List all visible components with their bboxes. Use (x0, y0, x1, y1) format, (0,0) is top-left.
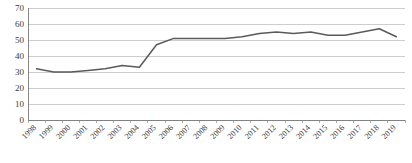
chart-canvas: 010203040506070 199819992000200120022003… (0, 0, 412, 163)
y-tick-label: 30 (15, 67, 25, 77)
y-tick-label: 20 (15, 83, 25, 93)
line-chart-figure: 010203040506070 199819992000200120022003… (0, 0, 412, 163)
y-tick-label: 50 (15, 35, 25, 45)
y-tick-label: 60 (15, 19, 25, 29)
y-tick-label: 40 (15, 51, 25, 61)
y-tick-label: 10 (15, 99, 25, 109)
y-tick-label: 70 (15, 3, 25, 13)
y-tick-label: 0 (20, 115, 25, 125)
